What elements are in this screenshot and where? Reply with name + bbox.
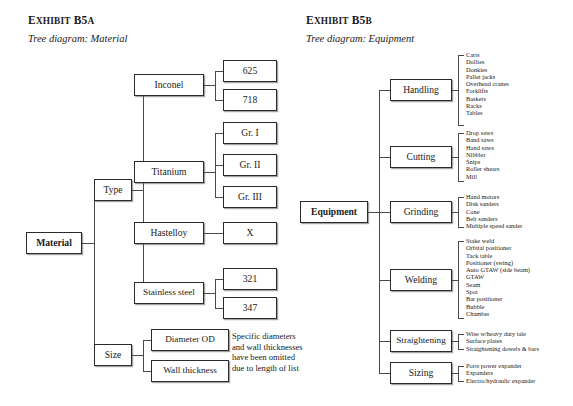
- leaf-inconel-718[interactable]: 718: [223, 89, 277, 111]
- leaf-straightening-1: Surface plates: [466, 337, 539, 344]
- exhibit-b-title-smallcaps: XHIBIT: [314, 16, 349, 26]
- leaf-handling-7: Racks: [466, 102, 509, 109]
- connector-root-stub: [82, 243, 94, 244]
- note-line-3: have been omitted: [232, 352, 303, 363]
- leaf-cutting-0: Drop saws: [466, 129, 500, 136]
- connector-inconel-stub: [204, 85, 215, 86]
- exhibit-b-title-initial: E: [306, 14, 314, 26]
- leaf-cutting-3: Nibbler: [466, 151, 500, 158]
- connector-straightening-spine: [458, 334, 459, 349]
- connector-hastelloy-x: [204, 233, 223, 234]
- leaf-size-diameter-od[interactable]: Diameter OD: [151, 329, 229, 351]
- connector-straightening-top: [458, 334, 464, 335]
- connector-sizing-bottom: [458, 381, 464, 382]
- node-type[interactable]: Type: [94, 179, 132, 201]
- node-inconel[interactable]: Inconel: [134, 74, 204, 96]
- leaf-hastelloy-x[interactable]: X: [223, 222, 277, 244]
- leaf-stainless-321[interactable]: 321: [223, 268, 277, 290]
- node-sizing[interactable]: Sizing: [390, 362, 452, 384]
- connector-welding-bottom: [458, 318, 464, 319]
- leaf-welding-2: Tack table: [466, 252, 530, 259]
- exhibit-b-title: EXHIBIT B5B: [306, 14, 372, 26]
- leaf-welding-1: Orbital positioner: [466, 244, 530, 251]
- leaf-list-handling: Carts Dollies Donkies Pallet jacks Overh…: [466, 51, 509, 117]
- connector-grinding-bottom: [458, 227, 464, 228]
- connector-size-diameter: [143, 340, 151, 341]
- leaf-handling-2: Donkies: [466, 66, 509, 73]
- node-material-root[interactable]: Material: [26, 232, 82, 254]
- leaf-welding-8: Bar positioner: [466, 295, 530, 302]
- leaf-stainless-347[interactable]: 347: [223, 297, 277, 319]
- connector-grinding-top: [458, 197, 464, 198]
- leaf-welding-6: Seam: [466, 281, 530, 288]
- leaf-titanium-gr2[interactable]: Gr. II: [223, 154, 277, 176]
- connector-welding-top: [458, 241, 464, 242]
- connector-welding: [379, 280, 390, 281]
- exhibit-a-title-initial: E: [28, 14, 36, 26]
- connector-titanium-gr1: [215, 133, 223, 134]
- leaf-grinding-4: Multiple speed sander: [466, 222, 522, 229]
- leaf-handling-1: Dollies: [466, 58, 509, 65]
- leaf-size-wall-thickness[interactable]: Wall thickness: [151, 360, 229, 382]
- connector-sizing-top: [458, 366, 464, 367]
- leaf-welding-3: Positioner (swing): [466, 259, 530, 266]
- connector-sizing: [379, 373, 390, 374]
- node-size[interactable]: Size: [94, 344, 132, 366]
- exhibit-a-title-rest: B5: [71, 14, 88, 26]
- leaf-list-grinding: Hand motors Disk sanders Cone Belt sande…: [466, 193, 522, 229]
- connector-straightening-bottom: [458, 349, 464, 350]
- connector-straightening: [379, 341, 390, 342]
- leaf-handling-6: Baskets: [466, 95, 509, 102]
- exhibit-a-subtitle: Tree diagram: Material: [28, 33, 127, 44]
- node-stainless-steel[interactable]: Stainless steel: [134, 282, 204, 304]
- leaf-list-welding: Stake weld Orbital positioner Tack table…: [466, 237, 530, 317]
- leaf-grinding-2: Cone: [466, 208, 522, 215]
- exhibit-a-title-suffix: A: [88, 16, 95, 26]
- node-straightening[interactable]: Straightening: [390, 330, 452, 352]
- exhibit-b-title-rest: B5: [349, 14, 366, 26]
- leaf-inconel-625[interactable]: 625: [223, 60, 277, 82]
- leaf-sizing-1: Expanders: [466, 369, 535, 376]
- leaf-handling-0: Carts: [466, 51, 509, 58]
- exhibit-b-subtitle: Tree diagram: Equipment: [306, 33, 414, 44]
- leaf-list-cutting: Drop saws Band saws Hand saws Nibbler Sn…: [466, 129, 500, 180]
- leaf-handling-4: Overhead cranes: [466, 80, 509, 87]
- exhibit-a-panel: EXHIBIT B5A Tree diagram: Material Mater…: [0, 0, 296, 406]
- leaf-welding-9: Bubble: [466, 303, 530, 310]
- connector-stainless-stub: [204, 293, 215, 294]
- node-titanium[interactable]: Titanium: [134, 161, 204, 183]
- note-line-4: due to length of list: [232, 363, 303, 374]
- node-welding[interactable]: Welding: [390, 269, 452, 291]
- connector-titanium-stub: [204, 172, 215, 173]
- leaf-welding-10: Chamber: [466, 310, 530, 317]
- connector-grinding-spine: [458, 197, 459, 227]
- leaf-titanium-gr3[interactable]: Gr. III: [223, 186, 277, 208]
- exhibit-a-title-smallcaps: XHIBIT: [36, 16, 71, 26]
- note-line-2: and wall thicknesses: [232, 342, 303, 353]
- connector-size-spine: [143, 340, 144, 371]
- connector-grinding: [379, 212, 390, 213]
- leaf-titanium-gr1[interactable]: Gr. I: [223, 122, 277, 144]
- connector-size-wall: [143, 371, 151, 372]
- connector-equipment-spine: [379, 90, 380, 373]
- connector-stainless-spine: [215, 279, 216, 308]
- node-cutting[interactable]: Cutting: [390, 146, 452, 168]
- connector-type-stub: [132, 190, 143, 191]
- node-hastelloy[interactable]: Hastelloy: [134, 222, 204, 244]
- leaf-welding-7: Spot: [466, 288, 530, 295]
- node-grinding[interactable]: Grinding: [390, 201, 452, 223]
- leaf-straightening-0: Wise w/heavy duty tale: [466, 330, 539, 337]
- exhibit-b-panel: EXHIBIT B5B Tree diagram: Equipment Equi…: [296, 0, 573, 406]
- leaf-sizing-0: Ports power expander: [466, 362, 535, 369]
- leaf-cutting-2: Hand saws: [466, 144, 500, 151]
- connector-titanium-gr2: [215, 165, 223, 166]
- connector-welding-spine: [458, 241, 459, 318]
- leaf-cutting-5: Roller shears: [466, 165, 500, 172]
- node-equipment-root[interactable]: Equipment: [300, 201, 368, 223]
- connector-type-spine: [143, 85, 144, 293]
- connector-handling-spine: [458, 55, 459, 125]
- connector-root-spine: [94, 190, 95, 355]
- leaf-handling-5: Forklifts: [466, 87, 509, 94]
- node-handling[interactable]: Handling: [390, 79, 452, 101]
- connector-handling-bottom: [458, 125, 464, 126]
